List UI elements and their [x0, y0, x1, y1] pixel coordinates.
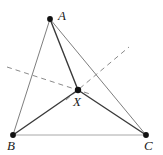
vertex-label-c: C — [144, 139, 153, 152]
segment-bx — [13, 90, 78, 135]
cevians-group — [13, 19, 146, 135]
geometry-canvas — [0, 0, 163, 155]
triangle-sides-group — [13, 19, 146, 135]
geometry-figure: ABCX — [0, 0, 163, 155]
segment-ab — [13, 19, 50, 135]
vertex-label-b: B — [7, 139, 15, 152]
segment-cx — [78, 90, 146, 135]
vertex-dot-a — [47, 16, 53, 22]
segment-ac — [50, 19, 146, 135]
vertex-dots-group — [10, 16, 149, 138]
vertex-dot-x — [75, 87, 81, 93]
vertex-label-a: A — [58, 9, 66, 22]
vertex-label-x: X — [73, 95, 81, 108]
segment-ax — [50, 19, 78, 90]
